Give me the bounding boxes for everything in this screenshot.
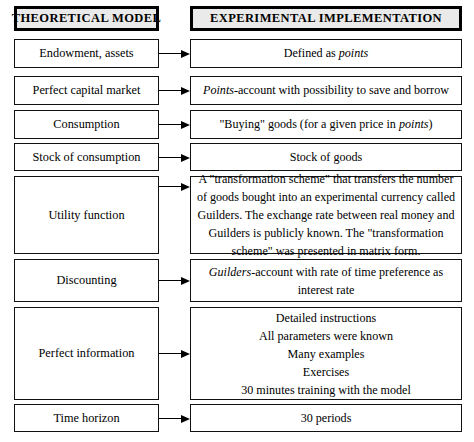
header-experimental-implementation: EXPERIMENTAL IMPLEMENTATION: [190, 6, 462, 31]
arrow-icon-6: [159, 349, 190, 358]
table-row-right-7: 30 periods: [190, 404, 462, 432]
row-left-label: Perfect information: [15, 345, 158, 362]
table-row-right-5: Guilders-account with rate of time prefe…: [190, 259, 462, 302]
table-row-left-3: Stock of consumption: [14, 143, 159, 171]
table-row-right-4: A "transformation scheme" that transfers…: [190, 176, 462, 254]
row-right-label: Points-account with possibility to save …: [191, 82, 461, 99]
row-right-label: Detailed instructionsAll parameters were…: [191, 309, 461, 399]
comparison-diagram: THEORETICAL MODEL EXPERIMENTAL IMPLEMENT…: [0, 0, 474, 442]
table-row-left-0: Endowment, assets: [14, 39, 159, 68]
arrow-icon-4: [159, 182, 190, 191]
table-row-left-4: Utility function: [14, 176, 159, 254]
row-left-label: Time horizon: [15, 410, 158, 427]
table-row-right-6: Detailed instructionsAll parameters were…: [190, 307, 462, 400]
table-row-right-0: Defined as points: [190, 39, 462, 68]
table-row-left-1: Perfect capital market: [14, 76, 159, 105]
arrow-icon-2: [159, 120, 190, 129]
header-theoretical-model: THEORETICAL MODEL: [14, 6, 159, 31]
row-right-label: Stock of goods: [191, 149, 461, 166]
arrow-icon-5: [159, 276, 190, 285]
arrow-icon-3: [159, 153, 190, 162]
row-right-label: A "transformation scheme" that transfers…: [191, 170, 461, 260]
arrow-icon-1: [159, 86, 190, 95]
table-row-right-2: "Buying" goods (for a given price in poi…: [190, 110, 462, 139]
table-row-left-2: Consumption: [14, 110, 159, 139]
row-right-label: "Buying" goods (for a given price in poi…: [191, 116, 461, 133]
row-left-label: Endowment, assets: [15, 45, 158, 62]
row-right-label: Defined as points: [191, 45, 461, 62]
row-right-label: Guilders-account with rate of time prefe…: [191, 263, 461, 299]
row-left-label: Perfect capital market: [15, 82, 158, 99]
arrow-icon-0: [159, 49, 190, 58]
table-row-left-6: Perfect information: [14, 307, 159, 400]
header-left-label: THEORETICAL MODEL: [12, 12, 162, 25]
row-left-label: Stock of consumption: [15, 149, 158, 166]
row-left-label: Discounting: [15, 272, 158, 289]
row-left-label: Consumption: [15, 116, 158, 133]
table-row-left-7: Time horizon: [14, 404, 159, 432]
arrow-icon-7: [159, 414, 190, 423]
row-left-label: Utility function: [15, 207, 158, 224]
table-row-left-5: Discounting: [14, 259, 159, 302]
header-right-label: EXPERIMENTAL IMPLEMENTATION: [210, 12, 442, 25]
table-row-right-1: Points-account with possibility to save …: [190, 76, 462, 105]
row-right-label: 30 periods: [191, 410, 461, 427]
table-row-right-3: Stock of goods: [190, 143, 462, 171]
